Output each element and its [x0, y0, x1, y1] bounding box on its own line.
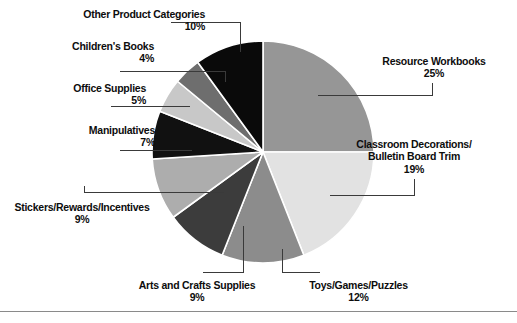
label-arts-and-crafts-supplies-name: Arts and Crafts Supplies — [127, 279, 267, 291]
label-stickers-rewards-incentives: Stickers/Rewards/Incentives 9% — [2, 201, 162, 226]
label-other-product-categories-name: Other Product Categories — [0, 8, 205, 20]
label-toys-games-puzzles-name: Toys/Games/Puzzles — [297, 279, 420, 291]
label-resource-workbooks-value: 25% — [372, 67, 496, 79]
label-manipulatives-value: 7% — [0, 136, 155, 148]
label-toys-games-puzzles: Toys/Games/Puzzles 12% — [297, 279, 420, 304]
label-toys-games-puzzles-value: 12% — [297, 291, 420, 303]
label-classroom-decorations-name-line2: Bulletin Board Trim — [352, 150, 476, 162]
label-manipulatives-name: Manipulatives — [0, 124, 155, 136]
label-arts-and-crafts-supplies: Arts and Crafts Supplies 9% — [127, 279, 267, 304]
label-resource-workbooks-name: Resource Workbooks — [372, 55, 496, 67]
label-stickers-rewards-incentives-value: 9% — [2, 213, 162, 225]
label-office-supplies-value: 5% — [0, 94, 146, 106]
label-office-supplies: Office Supplies 5% — [0, 82, 146, 107]
pie-slice-resource-workbooks — [263, 41, 374, 152]
label-other-product-categories: Other Product Categories 10% — [0, 8, 205, 33]
label-office-supplies-name: Office Supplies — [0, 82, 146, 94]
label-childrens-books: Children's Books 4% — [0, 40, 154, 65]
label-classroom-decorations-name: Classroom Decorations/ — [352, 138, 476, 150]
label-classroom-decorations-value: 19% — [352, 163, 476, 175]
label-classroom-decorations: Classroom Decorations/ Bulletin Board Tr… — [352, 138, 476, 175]
label-other-product-categories-value: 10% — [0, 20, 205, 32]
label-arts-and-crafts-supplies-value: 9% — [127, 291, 267, 303]
label-childrens-books-name: Children's Books — [0, 40, 154, 52]
pie-slice-group — [152, 41, 374, 263]
bottom-divider-rule — [0, 311, 517, 312]
label-stickers-rewards-incentives-name: Stickers/Rewards/Incentives — [2, 201, 162, 213]
label-childrens-books-value: 4% — [0, 52, 154, 64]
label-manipulatives: Manipulatives 7% — [0, 124, 155, 149]
pie-chart-figure: Other Product Categories 10% Children's … — [0, 0, 517, 323]
label-resource-workbooks: Resource Workbooks 25% — [372, 55, 496, 80]
